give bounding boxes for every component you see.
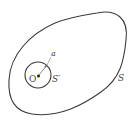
center-point-dot xyxy=(37,75,40,78)
inner-sphere-label: S′ xyxy=(52,74,60,84)
radius-label-leader xyxy=(47,57,51,65)
radius-label: a xyxy=(51,49,56,58)
outer-surface-curve xyxy=(9,12,127,115)
diagram-canvas: a O S′ S xyxy=(0,0,136,131)
center-point-label: O xyxy=(29,74,36,84)
outer-surface-label: S xyxy=(118,73,124,83)
radius-arrow-head xyxy=(44,65,47,68)
